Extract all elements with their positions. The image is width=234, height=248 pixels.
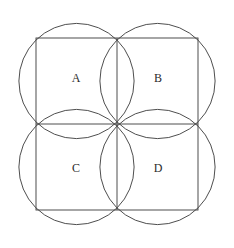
- quadrant-label-b: B: [154, 71, 162, 85]
- quadrant-label-d: D: [154, 161, 163, 175]
- geometry-figure: A B C D: [0, 0, 234, 248]
- geometry-diagram: A B C D: [0, 0, 234, 248]
- quadrant-label-a: A: [72, 71, 81, 85]
- quadrant-label-c: C: [72, 161, 80, 175]
